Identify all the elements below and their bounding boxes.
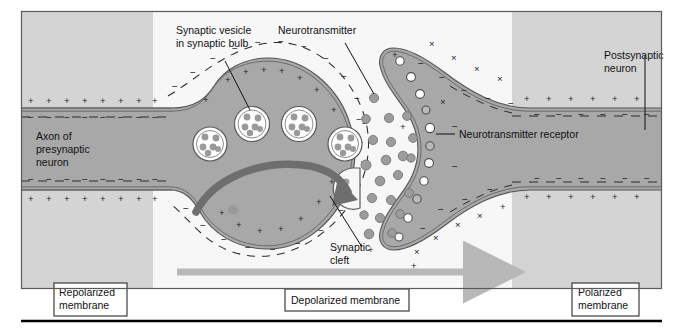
neurotransmitter-molecule (409, 134, 418, 143)
neurotransmitter-molecule (398, 151, 408, 161)
svg-text:−: − (487, 184, 493, 195)
svg-text:−: − (172, 81, 178, 92)
svg-text:−: − (118, 174, 124, 185)
svg-text:+: + (634, 93, 640, 104)
neurotransmitter-molecule (403, 112, 412, 121)
svg-text:+: + (225, 74, 231, 85)
svg-text:+: + (46, 95, 52, 106)
neurotransmitter-receptor (425, 123, 434, 132)
svg-text:+: + (64, 95, 70, 106)
svg-text:+: + (64, 193, 70, 204)
label-synaptic-vesicle-line1: Synaptic vesicle (176, 24, 251, 36)
neurotransmitter-molecule (375, 176, 385, 186)
svg-text:+: + (590, 93, 596, 104)
svg-text:−: − (323, 53, 329, 64)
synaptic-vesicle (282, 107, 317, 142)
svg-text:−: − (82, 174, 88, 185)
svg-text:+: + (546, 93, 552, 104)
neurotransmitter-molecule (360, 211, 368, 219)
label-neurotransmitter: Neurotransmitter (278, 24, 357, 36)
svg-text:+: + (28, 193, 34, 204)
svg-text:−: − (438, 204, 444, 215)
svg-text:−: − (278, 36, 284, 47)
svg-text:−: − (508, 98, 514, 109)
svg-text:+: + (152, 95, 158, 106)
svg-text:−: − (485, 93, 491, 104)
svg-text:−: − (418, 58, 424, 69)
svg-text:−: − (578, 109, 584, 120)
neurotransmitter-molecule (369, 93, 378, 102)
svg-text:−: − (356, 114, 362, 125)
neurotransmitter-receptor (422, 106, 430, 114)
svg-text:−: − (100, 112, 106, 123)
neurotransmitter-molecule (388, 229, 397, 238)
svg-text:×: × (474, 63, 480, 74)
neurotransmitter-molecule (384, 113, 393, 122)
svg-text:−: − (64, 112, 70, 123)
svg-text:−: − (270, 244, 276, 255)
svg-text:+: + (590, 191, 596, 202)
svg-text:+: + (243, 66, 249, 77)
label-axon-line2: presynaptic (36, 143, 90, 155)
svg-text:+: + (118, 193, 124, 204)
svg-text:+: + (297, 72, 303, 83)
label-postsynaptic-line1: Postsynaptic (604, 49, 664, 61)
neurotransmitter-molecule (393, 170, 402, 179)
neurotransmitter-molecule (407, 154, 415, 162)
neurotransmitter-molecule (364, 229, 374, 239)
svg-text:+: + (612, 191, 618, 202)
svg-text:+: + (100, 95, 106, 106)
svg-text:+: + (612, 93, 618, 104)
label-synaptic-cleft-line2: cleft (330, 254, 349, 266)
polarized-line1: Polarized (578, 286, 622, 298)
svg-text:×: × (455, 219, 461, 230)
svg-text:−: − (622, 109, 628, 120)
label-receptor: Neurotransmitter receptor (459, 128, 579, 140)
svg-text:+: + (118, 95, 124, 106)
svg-text:+: + (568, 93, 574, 104)
label-synaptic-vesicle-line2: in synaptic bulb (176, 37, 249, 49)
svg-text:−: − (600, 109, 606, 120)
svg-text:−: − (420, 223, 426, 234)
neurotransmitter-molecule (386, 137, 395, 146)
svg-text:−: − (210, 53, 216, 64)
cytosolic-granule (228, 205, 238, 215)
svg-text:×: × (497, 73, 503, 84)
neurotransmitter-molecule (367, 193, 376, 202)
svg-text:−: − (100, 174, 106, 185)
neurotransmitter-molecule (361, 160, 371, 170)
svg-text:+: + (524, 191, 530, 202)
svg-text:−: − (200, 220, 206, 231)
svg-text:+: + (568, 191, 574, 202)
svg-text:−: − (439, 72, 445, 83)
svg-text:+: + (257, 225, 263, 236)
svg-text:+: + (100, 193, 106, 204)
svg-text:+: + (331, 104, 337, 115)
svg-text:+: + (392, 49, 398, 60)
figure-canvas: +++ +++ ++ −−− −−− −− −−− −−− −− +++ +++… (0, 0, 684, 331)
svg-text:+: + (46, 193, 52, 204)
svg-text:+: + (203, 94, 209, 105)
svg-text:−: − (452, 121, 458, 132)
svg-text:−: − (556, 109, 562, 120)
svg-text:×: × (414, 246, 420, 257)
svg-text:+: + (298, 213, 304, 224)
neurotransmitter-receptor (413, 195, 421, 203)
svg-text:−: − (183, 203, 189, 214)
neurotransmitter-molecule (362, 115, 371, 124)
svg-text:+: + (314, 84, 320, 95)
neurotransmitter-molecule (375, 213, 384, 222)
svg-text:−: − (556, 173, 562, 184)
synaptic-vesicle-fusing (328, 127, 362, 161)
svg-text:+: + (136, 95, 142, 106)
repolarized-line2: membrane (59, 299, 109, 311)
svg-text:−: − (64, 174, 70, 185)
svg-text:−: − (221, 234, 227, 245)
neurotransmitter-molecule (405, 189, 414, 198)
svg-text:+: + (136, 193, 142, 204)
synaptic-vesicle (193, 127, 227, 161)
label-axon-line3: neuron (36, 156, 69, 168)
svg-text:−: − (255, 37, 261, 48)
svg-text:×: × (440, 96, 446, 107)
svg-text:+: + (82, 193, 88, 204)
